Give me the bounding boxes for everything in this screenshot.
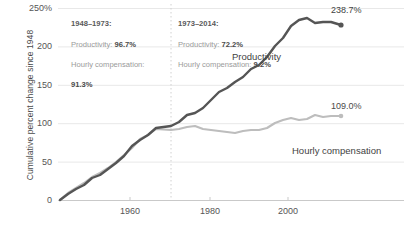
x-tick-marks — [130, 197, 288, 201]
annotation-1-line2-valuewrap: 91.3% — [71, 80, 163, 90]
end-value-hourly-compensation: 109.0% — [331, 101, 362, 111]
annotation-2-line1-label: Productivity: — [178, 40, 219, 49]
annotation-1-line2-label: Hourly compensation: — [71, 60, 144, 69]
endpoint-dot-productivity — [338, 22, 343, 27]
endpoint-dot-hourly-compensation — [339, 114, 344, 119]
annotation-1-line2: Hourly compensation: — [71, 60, 163, 70]
series-line-hourly-compensation — [60, 115, 341, 200]
annotation-1-line1: Productivity: 96.7% — [71, 40, 163, 50]
annotation-1-heading: 1948–1973: — [71, 19, 163, 29]
annotation-period-1973-2014: 1973–2014: Productivity: 72.2% Hourly co… — [178, 9, 306, 80]
annotation-2-line1-value: 72.2% — [221, 40, 243, 49]
series-label-productivity: Productivity — [232, 51, 281, 62]
annotation-1-line2-value: 91.3% — [71, 80, 93, 89]
annotation-2-heading: 1973–2014: — [178, 19, 306, 29]
series-label-hourly-compensation: Hourly compensation — [292, 145, 381, 156]
annotation-period-1948-1973: 1948–1973: Productivity: 96.7% Hourly co… — [71, 9, 163, 101]
annotation-2-line1: Productivity: 72.2% — [178, 40, 306, 50]
end-value-productivity: 238.7% — [331, 5, 362, 15]
annotation-1-line1-value: 96.7% — [114, 40, 136, 49]
chart-container: Cumulative percent change since 1948 250… — [0, 0, 404, 227]
annotation-1-line1-label: Productivity: — [71, 40, 112, 49]
